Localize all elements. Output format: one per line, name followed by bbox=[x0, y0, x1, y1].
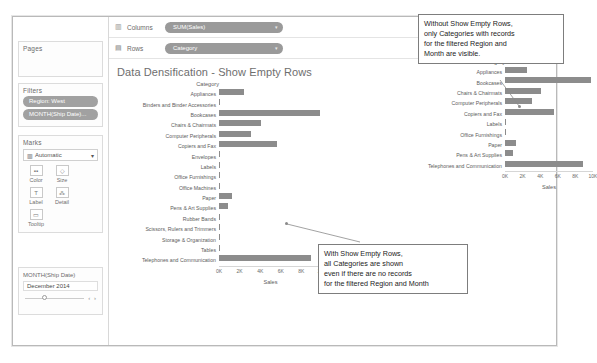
marks-tooltip-button[interactable]: ▭ Tooltip bbox=[23, 209, 49, 227]
chart-bar[interactable] bbox=[219, 255, 311, 261]
chart-row[interactable]: Telephones and Communication bbox=[117, 255, 327, 265]
pill-sum-sales-label: SUM(Sales) bbox=[173, 24, 205, 30]
chart-row[interactable]: Copiers and Fax bbox=[419, 109, 594, 119]
chart-bar[interactable] bbox=[219, 99, 220, 105]
chart-row[interactable]: Appliances bbox=[117, 89, 327, 99]
chart-row[interactable]: Labels bbox=[117, 162, 327, 172]
chart-without-empty-rows[interactable]: Category AppliancesBookcasesChairs & Cha… bbox=[419, 59, 594, 190]
prev-arrow-icon[interactable]: ‹ bbox=[88, 295, 91, 301]
filters-card[interactable]: Filters Region: West MONTH(Ship Date)... bbox=[18, 83, 103, 127]
annotation-top-line-3: for the filtered Region and bbox=[424, 39, 558, 49]
bar-chart-icon: ▥ bbox=[27, 152, 33, 159]
chart-bar-cell bbox=[219, 255, 327, 265]
annotation-top-line-1: Without Show Empty Rows, bbox=[424, 19, 558, 29]
next-arrow-icon[interactable]: › bbox=[94, 295, 97, 301]
chart-bar-cell bbox=[219, 89, 327, 99]
pages-card[interactable]: Pages bbox=[18, 41, 103, 77]
month-slider[interactable] bbox=[25, 298, 84, 299]
chart-right-rows: AppliancesBookcasesChairs & ChairmatsCom… bbox=[419, 67, 594, 171]
chart-bar[interactable] bbox=[219, 172, 220, 178]
chart-show-empty-rows[interactable]: Category AppliancesBinders and Binder Ac… bbox=[117, 81, 327, 285]
chart-row[interactable]: Storage & Organization bbox=[117, 234, 327, 244]
month-filter-value[interactable]: December 2014 bbox=[23, 281, 98, 291]
chart-bar[interactable] bbox=[219, 183, 220, 189]
marks-label-button[interactable]: T Label bbox=[23, 187, 49, 205]
annotation-anchor-top bbox=[518, 105, 521, 108]
chart-bar[interactable] bbox=[219, 214, 220, 220]
chart-row[interactable]: Computer Peripherals bbox=[117, 131, 327, 141]
marks-label-label: Label bbox=[23, 199, 49, 205]
chart-bar[interactable] bbox=[219, 151, 220, 157]
month-slider-row[interactable]: ‹ › bbox=[19, 291, 102, 301]
chart-bar[interactable] bbox=[505, 150, 513, 156]
annotation-top-line-4: Month are visible. bbox=[424, 49, 558, 59]
chart-bar[interactable] bbox=[219, 120, 261, 126]
chart-bar[interactable] bbox=[219, 203, 228, 209]
chart-bar[interactable] bbox=[219, 110, 320, 116]
pill-sum-sales[interactable]: SUM(Sales) ▾ bbox=[165, 22, 283, 33]
chart-row[interactable]: Bookcases bbox=[419, 77, 594, 87]
chart-row[interactable]: Pens & Art Supplies bbox=[419, 150, 594, 160]
chart-bar[interactable] bbox=[505, 67, 527, 73]
chart-row-label: Copiers and Fax bbox=[117, 143, 219, 149]
chart-bar[interactable] bbox=[219, 224, 220, 230]
month-filter-card[interactable]: MONTH(Ship Date) December 2014 ‹ › bbox=[18, 267, 103, 315]
chevron-down-icon[interactable]: ▾ bbox=[91, 152, 94, 159]
chart-bar[interactable] bbox=[505, 119, 506, 125]
axis-line bbox=[219, 266, 322, 267]
chart-row[interactable]: Pens & Art Supplies bbox=[117, 203, 327, 213]
chart-row[interactable]: Telephones and Communication bbox=[419, 161, 594, 171]
marks-detail-button[interactable]: ⁂ Detail bbox=[49, 187, 75, 205]
chart-row[interactable]: Bookcases bbox=[117, 110, 327, 120]
chart-bar[interactable] bbox=[219, 245, 220, 251]
chart-row-label: Telephones and Communication bbox=[117, 257, 219, 263]
chart-row-label: Rubber Bands bbox=[117, 216, 219, 222]
chart-row[interactable]: Office Machines bbox=[117, 183, 327, 193]
chart-row[interactable]: Envelopes bbox=[117, 151, 327, 161]
axis-line bbox=[505, 171, 593, 172]
chart-bar[interactable] bbox=[219, 141, 277, 147]
detail-icon: ⁂ bbox=[56, 187, 69, 198]
chart-row[interactable]: Paper bbox=[117, 193, 327, 203]
chart-bar[interactable] bbox=[219, 89, 244, 95]
chart-row[interactable]: Chairs & Chairmats bbox=[117, 120, 327, 130]
chart-row[interactable]: Scissors, Rulers and Trimmers bbox=[117, 224, 327, 234]
chart-bar[interactable] bbox=[505, 161, 583, 167]
chart-row-label: Computer Peripherals bbox=[117, 133, 219, 139]
chart-row[interactable]: Appliances bbox=[419, 67, 594, 77]
chart-bar[interactable] bbox=[219, 162, 220, 168]
month-step-arrows[interactable]: ‹ › bbox=[88, 295, 97, 301]
filter-pill-region[interactable]: Region: West bbox=[23, 96, 98, 107]
chart-row[interactable]: Office Furnishings bbox=[117, 172, 327, 182]
chart-bar[interactable] bbox=[505, 109, 554, 115]
filter-pill-month[interactable]: MONTH(Ship Date)... bbox=[23, 109, 98, 120]
pill-category[interactable]: Category ▾ bbox=[165, 43, 283, 54]
chart-bar[interactable] bbox=[505, 77, 591, 83]
marks-size-button[interactable]: ◇ Size bbox=[49, 165, 75, 183]
marks-tooltip-label: Tooltip bbox=[23, 221, 49, 227]
chart-row[interactable]: Paper bbox=[419, 140, 594, 150]
chart-bar[interactable] bbox=[219, 234, 220, 240]
chart-bar[interactable] bbox=[505, 129, 506, 135]
chart-row[interactable]: Binders and Binder Accessories bbox=[117, 99, 327, 109]
chart-bar[interactable] bbox=[505, 98, 532, 104]
chart-bar[interactable] bbox=[219, 193, 232, 199]
slider-knob[interactable] bbox=[42, 295, 47, 300]
chart-row[interactable]: Office Furnishings bbox=[419, 129, 594, 139]
chart-row[interactable]: Computer Peripherals bbox=[419, 98, 594, 108]
chart-row[interactable]: Labels bbox=[419, 119, 594, 129]
chart-bar-cell bbox=[505, 77, 594, 87]
pill-chevron-down-icon[interactable]: ▾ bbox=[275, 22, 278, 33]
marks-card[interactable]: Marks ▥ Automatic ▾ ▪▪ Color ◇ Size bbox=[18, 135, 103, 233]
chart-bar[interactable] bbox=[505, 88, 541, 94]
chart-row[interactable]: Tables bbox=[117, 245, 327, 255]
marks-color-button[interactable]: ▪▪ Color bbox=[23, 165, 49, 183]
chart-row[interactable]: Copiers and Fax bbox=[117, 141, 327, 151]
chart-bar[interactable] bbox=[505, 140, 516, 146]
chart-row[interactable]: Rubber Bands bbox=[117, 214, 327, 224]
marks-type-dropdown[interactable]: ▥ Automatic ▾ bbox=[23, 149, 98, 161]
chart-bar-cell bbox=[505, 88, 594, 98]
pill-chevron-down-icon[interactable]: ▾ bbox=[275, 43, 278, 54]
chart-bar[interactable] bbox=[219, 131, 251, 137]
chart-row[interactable]: Chairs & Chairmats bbox=[419, 88, 594, 98]
